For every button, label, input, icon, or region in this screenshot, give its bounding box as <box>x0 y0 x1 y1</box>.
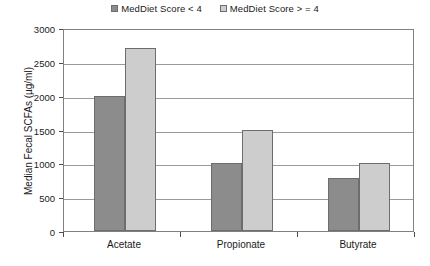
legend-item-medDiet-score-gte-4: MedDiet Score > = 4 <box>220 3 319 14</box>
x-axis-label-butyrate: Butyrate <box>339 239 376 250</box>
bar-chart: MedDiet Score < 4 MedDiet Score > = 4 Me… <box>0 0 430 266</box>
plot-area <box>63 29 414 232</box>
legend-swatch-icon-dark <box>111 5 118 12</box>
legend-label-series-1: MedDiet Score < 4 <box>121 3 202 14</box>
bar-acetate-series-1 <box>94 96 125 231</box>
x-axis-separator-tick <box>63 232 64 237</box>
y-axis-title: Median Fecal SCFAs (µg/ml) <box>23 31 34 231</box>
x-axis-label-acetate: Acetate <box>107 239 141 250</box>
chart-legend: MedDiet Score < 4 MedDiet Score > = 4 <box>0 3 430 14</box>
x-axis-separator-tick <box>414 232 415 237</box>
bar-propionate-series-1 <box>211 163 242 231</box>
legend-label-series-2: MedDiet Score > = 4 <box>230 3 319 14</box>
x-axis-label-propionate: Propionate <box>217 239 265 250</box>
x-axis-separator-tick <box>180 232 181 237</box>
bar-butyrate-series-1 <box>328 178 359 231</box>
x-axis-separator-tick <box>297 232 298 237</box>
bar-acetate-series-2 <box>125 48 156 231</box>
y-axis-title-container: Median Fecal SCFAs (µg/ml) <box>14 29 28 232</box>
bar-butyrate-series-2 <box>359 163 390 231</box>
legend-swatch-icon-light <box>220 5 227 12</box>
bar-propionate-series-2 <box>242 130 273 231</box>
gridline <box>64 64 413 65</box>
legend-item-medDiet-score-lt-4: MedDiet Score < 4 <box>111 3 202 14</box>
